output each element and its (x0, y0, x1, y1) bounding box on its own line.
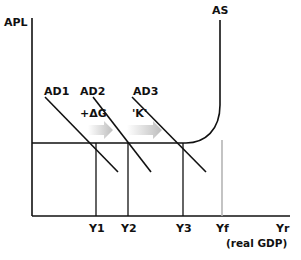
x-tick-y3: Y3 (175, 222, 192, 235)
multiplier-arrow-icon (127, 121, 162, 139)
delta-g-arrow-icon (88, 121, 113, 139)
y-axis-label: APL (4, 16, 28, 29)
multiplier-label: 'K' (132, 107, 147, 120)
ad2-label: AD2 (80, 85, 105, 98)
delta-g-label: +ΔG (80, 107, 107, 120)
as-label: AS (212, 4, 229, 17)
x-tick-y2: Y2 (120, 222, 137, 235)
x-axis-label: Yr (275, 222, 290, 235)
ad3-label: AD3 (133, 85, 158, 98)
x-tick-y1: Y1 (88, 222, 105, 235)
x-axis-sublabel: (real GDP) (226, 237, 287, 249)
ad1-label: AD1 (44, 85, 69, 98)
x-tick-yf: Yf (215, 222, 229, 235)
ad-as-diagram: APL AS AD1 AD2 AD3 +ΔG 'K' Y1 Y2 Y3 Yf Y… (0, 0, 301, 260)
as-curve (32, 20, 220, 143)
